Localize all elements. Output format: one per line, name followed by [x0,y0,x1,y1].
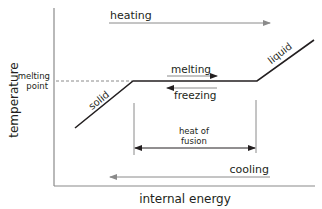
x-axis-label: internal energy [139,192,231,206]
melting-arrow: melting [167,63,217,76]
cooling-arrow: cooling [110,163,270,177]
melting-label: melting [171,63,211,75]
heat-of-fusion-label-line1: heat of [179,126,210,136]
heat-of-fusion-label-line2: fusion [181,136,207,146]
melting-point-label-line2: point [26,81,48,91]
heating-label: heating [110,9,152,22]
heating-arrow: heating [109,9,270,23]
heating-curve-diagram: temperature internal energy melting poin… [0,0,322,209]
heat-of-fusion-span: heat of fusion [134,100,256,155]
freezing-label: freezing [174,89,216,101]
melting-point-label-line1: melting [18,71,50,81]
liquid-label: liquid [266,40,294,66]
cooling-label: cooling [229,163,269,176]
freezing-arrow: freezing [167,88,217,101]
